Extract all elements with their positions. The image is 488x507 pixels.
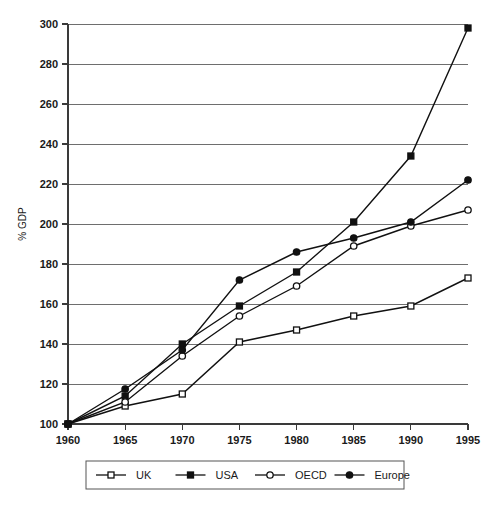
chart-background bbox=[0, 0, 488, 507]
data-point-europe-1995 bbox=[465, 177, 471, 183]
y-tick-label: 160 bbox=[40, 298, 58, 310]
data-point-usa-1975 bbox=[236, 303, 242, 309]
x-tick-label: 1990 bbox=[399, 434, 423, 446]
legend-marker-usa bbox=[188, 472, 194, 478]
y-tick-label: 260 bbox=[40, 98, 58, 110]
y-tick-label: 300 bbox=[40, 18, 58, 30]
y-tick-label: 180 bbox=[40, 258, 58, 270]
y-tick-label: 140 bbox=[40, 338, 58, 350]
data-point-uk-1980 bbox=[294, 327, 300, 333]
data-point-usa-1980 bbox=[294, 269, 300, 275]
legend-label-europe: Europe bbox=[375, 469, 410, 481]
data-point-europe-1965 bbox=[122, 386, 128, 392]
y-tick-label: 100 bbox=[40, 418, 58, 430]
y-axis-title: % GDP bbox=[17, 207, 28, 241]
data-point-oecd-1975 bbox=[236, 313, 242, 319]
data-point-europe-1985 bbox=[351, 235, 357, 241]
y-tick-label: 220 bbox=[40, 178, 58, 190]
data-point-uk-1975 bbox=[236, 339, 242, 345]
x-tick-label: 1975 bbox=[227, 434, 251, 446]
data-point-uk-1990 bbox=[408, 303, 414, 309]
x-tick-label: 1960 bbox=[56, 434, 80, 446]
data-point-europe-1980 bbox=[293, 249, 299, 255]
data-point-usa-1995 bbox=[465, 25, 471, 31]
data-point-uk-1985 bbox=[351, 313, 357, 319]
legend-label-uk: UK bbox=[136, 469, 152, 481]
data-point-usa-1985 bbox=[351, 219, 357, 225]
data-point-oecd-1995 bbox=[465, 207, 471, 213]
chart-legend: UKUSAOECDEurope bbox=[86, 461, 410, 489]
x-tick-label: 1980 bbox=[284, 434, 308, 446]
x-tick-label: 1995 bbox=[456, 434, 480, 446]
data-point-usa-1965 bbox=[122, 393, 128, 399]
legend-marker-oecd bbox=[267, 472, 273, 478]
data-point-europe-1990 bbox=[408, 219, 414, 225]
data-point-usa-1970 bbox=[179, 341, 185, 347]
x-tick-label: 1965 bbox=[113, 434, 137, 446]
legend-marker-uk bbox=[108, 472, 114, 478]
data-point-oecd-1980 bbox=[293, 283, 299, 289]
chart-container: 100120140160180200220240260280300 196019… bbox=[0, 0, 488, 507]
y-tick-label: 240 bbox=[40, 138, 58, 150]
line-chart: 100120140160180200220240260280300 196019… bbox=[0, 0, 488, 507]
data-point-uk-1995 bbox=[465, 275, 471, 281]
data-point-europe-1970 bbox=[179, 347, 185, 353]
data-point-oecd-1965 bbox=[122, 399, 128, 405]
data-point-uk-1970 bbox=[179, 391, 185, 397]
legend-label-usa: USA bbox=[216, 469, 239, 481]
x-tick-label: 1970 bbox=[170, 434, 194, 446]
y-tick-label: 120 bbox=[40, 378, 58, 390]
data-point-usa-1990 bbox=[408, 153, 414, 159]
data-point-europe-1975 bbox=[236, 277, 242, 283]
x-tick-label: 1985 bbox=[341, 434, 365, 446]
y-tick-label: 280 bbox=[40, 58, 58, 70]
legend-label-oecd: OECD bbox=[295, 469, 327, 481]
data-point-europe-1960 bbox=[65, 421, 71, 427]
data-point-oecd-1985 bbox=[351, 243, 357, 249]
legend-marker-europe bbox=[346, 472, 352, 478]
y-tick-label: 200 bbox=[40, 218, 58, 230]
